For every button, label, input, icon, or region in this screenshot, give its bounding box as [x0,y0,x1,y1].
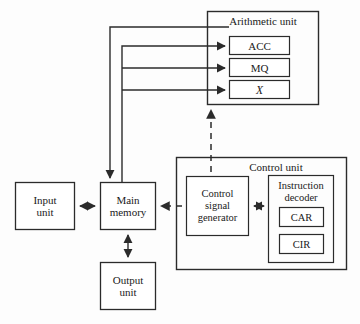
cir-label: CIR [279,234,324,254]
main-memory-box [101,183,156,230]
input-unit-box [16,183,75,230]
arithmetic-unit-title: Arithmetic unit [207,15,319,27]
acc-label: ACC [229,36,290,55]
mq-label: MQ [229,58,290,77]
computer-organization-diagram: Arithmetic unit Control unit Instruction… [0,0,360,324]
x-register-label: X [229,80,290,99]
control-unit-title: Control unit [205,161,347,173]
control-signal-generator-box [187,177,249,236]
output-unit-box [101,263,156,310]
car-label: CAR [279,207,324,227]
component-boxes [16,37,324,310]
